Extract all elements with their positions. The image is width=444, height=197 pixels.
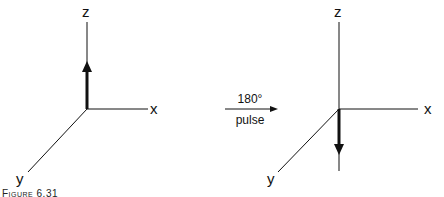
figure-caption: Figure 6.31 <box>2 188 58 197</box>
diagram-canvas <box>0 0 444 197</box>
right-axes <box>278 22 418 172</box>
left-y-label: y <box>16 171 24 186</box>
pulse-arrow <box>225 106 278 112</box>
right-y-label: y <box>267 171 275 186</box>
right-magnetization-vector <box>334 109 344 155</box>
pulse-top-label: 180° <box>225 93 275 105</box>
right-x-label: x <box>424 101 432 116</box>
pulse-bottom-label: pulse <box>225 114 275 126</box>
left-x-label: x <box>150 101 158 116</box>
left-z-label: z <box>82 4 90 19</box>
left-magnetization-vector <box>82 61 92 109</box>
right-z-label: z <box>334 4 342 19</box>
